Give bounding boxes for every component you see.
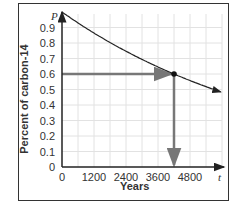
y-tick-label: 0.4 [40,99,55,111]
y-tick-label: 0.5 [40,84,55,96]
y-tick-label: 0 [49,161,55,173]
decay-chart: 00.10.20.30.40.50.60.70.80.9012002400360… [0,0,236,213]
x-tick-label: 3600 [146,171,170,183]
y-tick-label: 0.6 [40,68,55,80]
y-tick-label: 0.9 [40,22,55,34]
decay-curve [62,12,221,92]
y-tick-label: 0.3 [40,115,55,127]
y-tick-label: 0.7 [40,53,55,65]
y-tick-label: 0.1 [40,146,55,158]
x-tick-label: 0 [59,171,65,183]
x-tick-label: 4800 [178,171,202,183]
y-tick-label: 0.8 [40,37,55,49]
y-axis-symbol: P [50,10,58,22]
x-axis-label: Years [120,180,149,192]
y-axis-label: Percent of carbon-14 [18,39,30,159]
x-axis-symbol: t [218,171,222,183]
x-tick-label: 1200 [82,171,106,183]
y-tick-label: 0.2 [40,130,55,142]
intersection-point [171,71,177,77]
